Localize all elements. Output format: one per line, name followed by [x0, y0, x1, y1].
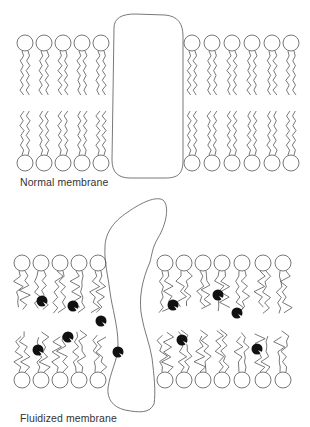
lipid-tail: [45, 51, 49, 95]
phospholipid-head: [14, 372, 30, 388]
phospholipid-head: [17, 35, 33, 51]
phospholipid-head: [55, 35, 71, 51]
phospholipid-head: [244, 35, 260, 51]
lipid-tail: [267, 51, 270, 95]
lipid-tail: [227, 51, 231, 95]
lipid-tail: [39, 51, 43, 95]
phospholipid-head: [157, 372, 173, 388]
phospholipid-head: [93, 155, 109, 171]
lipid-tail: [236, 271, 244, 313]
phospholipid-head: [255, 372, 271, 388]
fluidized-membrane-label: Fluidized membrane: [20, 412, 117, 424]
phospholipid-head: [71, 372, 87, 388]
lipid-tail: [233, 111, 237, 155]
lipid-tail: [267, 111, 271, 155]
lipid-tail: [240, 271, 249, 312]
lipid-tail: [220, 330, 229, 372]
lipid-tail: [234, 337, 243, 373]
lipid-tail: [293, 51, 296, 95]
normal-membrane-label: Normal membrane: [20, 176, 108, 188]
lipid-tail: [261, 336, 270, 372]
lipid-tail: [233, 51, 237, 95]
lipid-tail: [286, 51, 290, 95]
phospholipid-head: [90, 255, 106, 271]
phospholipid-head: [283, 155, 299, 171]
lipid-tail: [77, 330, 87, 372]
lipid-tail: [64, 51, 68, 95]
phospholipid-head: [224, 35, 240, 51]
lipid-tail: [19, 331, 30, 372]
phospholipid-head: [184, 35, 200, 51]
lipid-tail: [280, 271, 292, 313]
lipid-tail: [19, 271, 30, 310]
phospholipid-head: [74, 35, 90, 51]
normal-membrane-panel: [17, 14, 299, 178]
lipid-tail: [194, 336, 206, 372]
lipid-tail: [58, 51, 62, 95]
lipid-tail: [83, 51, 87, 95]
lipid-tail: [286, 111, 290, 155]
lipid-tail: [53, 271, 63, 313]
lipid-tail: [64, 111, 68, 155]
membrane-diagram: [0, 0, 310, 427]
phospholipid-head: [93, 35, 109, 51]
phospholipid-head: [36, 35, 52, 51]
lipid-tail: [274, 337, 285, 372]
lipid-tail: [52, 337, 62, 372]
phospholipid-head: [14, 255, 30, 271]
lipid-tail: [193, 51, 197, 95]
phospholipid-head: [275, 255, 291, 271]
phospholipid-head: [275, 372, 291, 388]
lipid-tail: [193, 111, 197, 155]
phospholipid-head: [214, 372, 230, 388]
lipid-tail: [254, 271, 265, 307]
lipid-tail: [159, 271, 163, 313]
phospholipid-head: [55, 155, 71, 171]
lipid-tail: [187, 111, 191, 155]
phospholipid-head: [52, 255, 68, 271]
phospholipid-head: [244, 155, 260, 171]
lipid-tail: [253, 51, 257, 95]
lipid-tail: [227, 111, 231, 155]
lipid-tail: [20, 111, 24, 155]
lipid-tail: [247, 51, 251, 95]
lipid-tail: [253, 111, 256, 155]
phospholipid-head: [52, 372, 68, 388]
lipid-tail: [273, 111, 277, 155]
lipid-tail: [207, 51, 211, 95]
phospholipid-head: [283, 35, 299, 51]
lipid-tail: [102, 111, 106, 155]
phospholipid-head: [157, 255, 173, 271]
lipid-tail: [184, 271, 192, 306]
lipid-tail: [213, 111, 217, 155]
lipid-tail: [273, 51, 277, 95]
phospholipid-head: [184, 155, 200, 171]
lipid-tail: [162, 332, 174, 372]
transmembrane-protein: [112, 14, 183, 178]
phospholipid-head: [234, 255, 250, 271]
lipid-tail: [207, 111, 211, 155]
lipid-tail: [281, 331, 289, 372]
phospholipid-head: [176, 255, 192, 271]
lipid-tail: [96, 51, 100, 95]
phospholipid-head: [90, 372, 106, 388]
phospholipid-head: [264, 155, 280, 171]
lipid-tail: [215, 331, 224, 372]
lipid-tail: [213, 51, 217, 95]
lipid-tail: [276, 271, 282, 313]
phospholipid-head: [176, 372, 192, 388]
lipid-tail: [83, 111, 87, 155]
lipid-tail: [20, 51, 24, 95]
phospholipid-head: [71, 255, 87, 271]
lipid-tail: [26, 111, 30, 155]
phospholipid-head: [195, 372, 211, 388]
phospholipid-head: [17, 155, 33, 171]
lipid-tail: [77, 51, 81, 95]
phospholipid-head: [255, 255, 271, 271]
lipid-tail: [187, 51, 191, 95]
lipid-tail: [58, 111, 62, 155]
phospholipid-head: [36, 155, 52, 171]
lipid-tail: [26, 51, 30, 95]
phospholipid-head: [204, 155, 220, 171]
phospholipid-head: [224, 155, 240, 171]
